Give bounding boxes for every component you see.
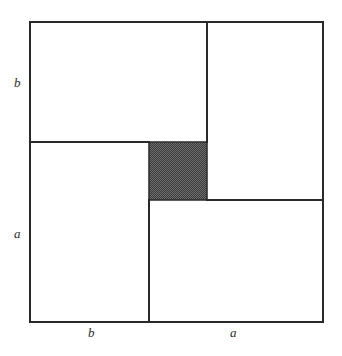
- side-label-a-bottom: a: [230, 326, 237, 339]
- side-label-a-left: a: [14, 227, 21, 240]
- geometric-diagram: [0, 0, 342, 356]
- side-label-b-bottom: b: [88, 326, 95, 339]
- side-label-b-left: b: [14, 76, 21, 89]
- shaded-center-square: [149, 142, 207, 200]
